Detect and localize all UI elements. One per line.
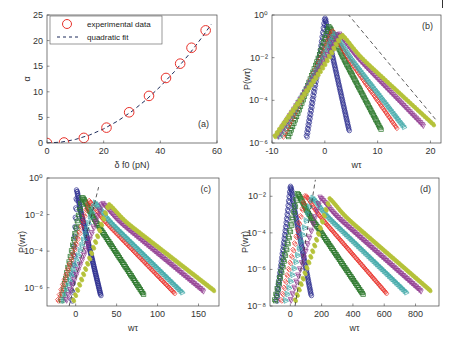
circle-marker	[309, 293, 313, 297]
y-tick-label: 10⁻⁶	[247, 264, 266, 274]
star-marker	[310, 83, 314, 87]
star-marker	[337, 40, 341, 44]
star-marker	[302, 278, 306, 282]
plot-area	[272, 180, 432, 306]
star-marker	[317, 74, 321, 78]
data-point	[201, 26, 211, 36]
star-marker	[323, 63, 327, 67]
star-marker	[278, 129, 282, 133]
y-tick-label: 10⁻²	[250, 53, 268, 63]
star-marker	[328, 56, 332, 60]
y-tick-label: 10⁰	[254, 10, 268, 20]
star-marker	[78, 284, 82, 288]
star-marker	[294, 106, 298, 110]
star-marker	[312, 80, 316, 84]
star-marker	[283, 122, 287, 126]
x-axis-label: wτ	[127, 323, 138, 333]
star-marker	[88, 258, 92, 262]
star-marker	[321, 67, 325, 71]
x-axis-label: δ f0 (pN)	[114, 160, 149, 170]
x-tick-label: 200	[314, 309, 329, 319]
star-marker	[304, 272, 308, 276]
star-marker	[287, 116, 291, 120]
star-marker	[104, 212, 108, 216]
star-marker	[280, 126, 284, 130]
star-marker	[84, 268, 88, 272]
x-tick-label: 10	[373, 146, 383, 156]
x-tick-label: 50	[112, 309, 122, 319]
star-marker	[317, 233, 321, 237]
x-tick-label: 100	[150, 309, 165, 319]
y-tick-label: 10⁻²	[25, 210, 43, 220]
x-tick-label: 800	[408, 309, 423, 319]
data-point	[175, 59, 185, 69]
data-point	[161, 73, 171, 83]
circle-marker	[286, 213, 290, 217]
panel-b-work-distribution: -100102010⁻⁶10⁻⁴10⁻²10⁰wτP(wτ)(b)	[242, 9, 441, 170]
x-axis-label: wτ	[348, 323, 359, 333]
star-marker	[100, 224, 104, 228]
y-tick-label: 10⁻⁴	[249, 95, 268, 105]
y-tick-label: 10⁻²	[248, 191, 266, 201]
x-tick-label: 20	[425, 146, 435, 156]
star-marker	[309, 256, 313, 260]
x-tick-label: 0	[73, 309, 78, 319]
circle-marker	[285, 218, 289, 222]
x-tick-label: 0	[322, 146, 327, 156]
star-marker	[303, 93, 307, 97]
data-point	[144, 91, 154, 101]
figure: experimental dataquadratic fit0204060051…	[0, 0, 449, 342]
star-marker	[82, 273, 86, 277]
y-tick-label: 15	[33, 61, 43, 71]
y-tick-label: 25	[33, 10, 43, 20]
panel-a-alpha-vs-force: experimental dataquadratic fit0204060051…	[22, 10, 222, 170]
legend-label-experimental: experimental data	[87, 20, 151, 29]
x-tick-label: 600	[377, 309, 392, 319]
y-axis-label: P(wτ)	[17, 231, 27, 253]
y-tick-label: 10⁰	[29, 173, 43, 183]
star-marker	[306, 267, 310, 271]
panel-c-work-distribution: 05010015010⁻⁶10⁻⁴10⁻²10⁰wτP(wτ)(c)	[17, 173, 219, 333]
x-tick-label: 400	[345, 309, 360, 319]
star-marker	[94, 241, 98, 245]
star-marker	[314, 77, 318, 81]
star-marker	[80, 279, 84, 283]
x-tick-label: 20	[99, 146, 109, 156]
star-marker	[325, 209, 329, 213]
star-marker	[74, 294, 78, 298]
star-marker	[429, 289, 433, 293]
plot-area	[55, 187, 215, 306]
y-tick-label: 10	[33, 87, 43, 97]
data-point	[124, 107, 134, 117]
y-axis-label: P(wτ)	[240, 231, 250, 253]
star-marker	[102, 218, 106, 222]
star-marker	[321, 221, 325, 225]
star-marker	[86, 263, 90, 267]
panel-label: (b)	[422, 21, 433, 31]
star-marker	[335, 44, 339, 48]
star-marker	[298, 289, 302, 293]
star-marker	[313, 245, 317, 249]
data-point	[59, 138, 69, 148]
star-marker	[315, 239, 319, 243]
star-marker	[323, 215, 327, 219]
y-axis-label: P(wτ)	[242, 68, 252, 90]
star-marker	[285, 119, 289, 123]
star-marker	[299, 100, 303, 104]
panel-label: (a)	[198, 119, 209, 129]
star-marker	[76, 289, 80, 293]
star-marker	[276, 132, 280, 136]
plot-area	[273, 9, 436, 140]
y-tick-label: 10⁻⁶	[24, 283, 43, 293]
y-tick-label: 20	[33, 36, 43, 46]
y-tick-label: 10⁻⁶	[249, 138, 268, 148]
panel-d-work-distribution: 020040060080010⁻⁸10⁻⁶10⁻⁴10⁻²wτP(wτ)(d)	[240, 178, 439, 333]
star-marker	[301, 96, 305, 100]
y-tick-label: 5	[38, 112, 43, 122]
star-marker	[330, 52, 334, 56]
star-marker	[92, 247, 96, 251]
star-marker	[308, 87, 312, 91]
x-tick-label: 0	[288, 309, 293, 319]
star-marker	[292, 109, 296, 113]
series-star	[273, 33, 436, 139]
